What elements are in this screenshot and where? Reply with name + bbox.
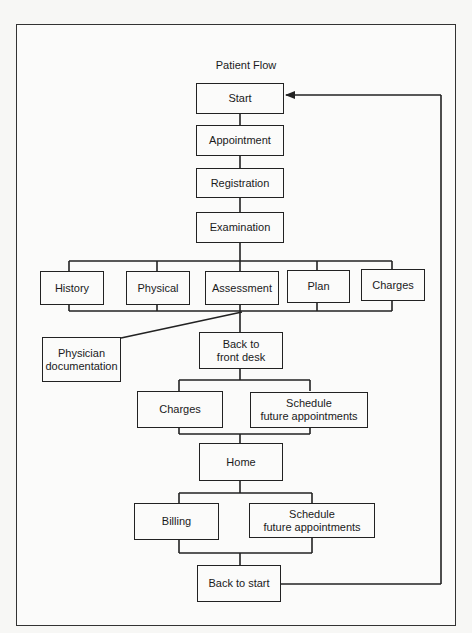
node-exam-charges: Charges — [361, 269, 425, 301]
node-examination: Examination — [196, 212, 284, 243]
diagram-title: Patient Flow — [206, 59, 286, 71]
node-label: Registration — [211, 177, 270, 190]
node-label: Plan — [307, 280, 329, 293]
node-label: Schedule future appointments — [263, 508, 360, 534]
node-label: Billing — [162, 515, 191, 528]
node-label: Examination — [210, 221, 271, 234]
node-label: Schedule future appointments — [260, 397, 357, 423]
node-label: Home — [226, 456, 255, 469]
node-start: Start — [196, 83, 284, 114]
node-label: Charges — [159, 403, 201, 416]
node-label: Start — [228, 92, 251, 105]
node-registration: Registration — [196, 168, 284, 198]
node-label: Assessment — [212, 282, 272, 295]
node-label: Charges — [372, 279, 414, 292]
node-front-desk-charges: Charges — [137, 391, 223, 428]
node-billing: Billing — [134, 503, 219, 540]
node-physical: Physical — [126, 271, 190, 305]
node-history: History — [40, 271, 104, 305]
node-appointment: Appointment — [196, 125, 284, 156]
node-label: Back to front desk — [217, 338, 265, 364]
node-label: Physician documentation — [45, 347, 117, 373]
node-back-to-start: Back to start — [197, 565, 281, 602]
node-label: Physical — [138, 282, 179, 295]
node-assessment: Assessment — [205, 271, 279, 305]
node-label: Appointment — [209, 134, 271, 147]
node-back-to-front-desk: Back to front desk — [199, 332, 283, 369]
node-physician-documentation: Physician documentation — [42, 337, 121, 382]
node-schedule-future-appointments-1: Schedule future appointments — [250, 392, 368, 428]
node-home: Home — [199, 443, 283, 481]
node-label: History — [55, 282, 89, 295]
node-schedule-future-appointments-2: Schedule future appointments — [249, 503, 375, 538]
node-label: Back to start — [208, 577, 269, 590]
node-plan: Plan — [287, 270, 350, 303]
